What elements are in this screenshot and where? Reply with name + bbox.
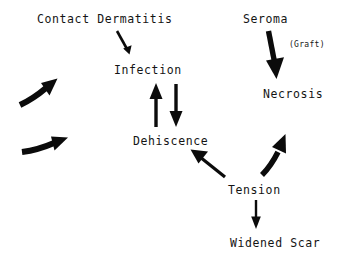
arrow-tension-to-dehiscence: [191, 150, 226, 178]
wound-complication-diagram: Contact Dermatitis Seroma (Graft) Infect…: [0, 0, 348, 258]
arrow-external-to-dehiscence: [22, 137, 68, 153]
node-label-contact-dermatitis: Contact Dermatitis: [37, 14, 172, 26]
arrow-tension-to-widened-scar: [251, 200, 261, 229]
node-label-necrosis: Necrosis: [263, 89, 323, 101]
node-label-dehiscence: Dehiscence: [133, 136, 208, 148]
arrow-infection-to-dehiscence: [170, 84, 183, 127]
node-label-tension: Tension: [228, 185, 281, 197]
arrow-tension-to-necrosis: [262, 134, 286, 175]
node-label-graft: (Graft): [289, 41, 325, 49]
node-label-widened-scar: Widened Scar: [230, 238, 320, 250]
node-label-infection: Infection: [114, 65, 182, 77]
arrow-dermatitis-to-infection: [117, 31, 132, 55]
node-label-seroma: Seroma: [243, 14, 288, 26]
arrow-dehiscence-to-infection: [150, 83, 163, 127]
arrow-layer: [0, 0, 348, 258]
arrow-external-to-infection: [20, 79, 58, 106]
arrow-seroma-to-necrosis: [266, 31, 284, 79]
